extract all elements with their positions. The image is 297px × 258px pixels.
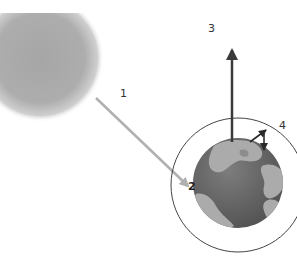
label-3: 3 [208, 23, 215, 34]
earth-globe-icon [193, 138, 284, 228]
sun-icon [0, 0, 104, 122]
arrow-incoming-sunlight [96, 98, 188, 186]
label-1: 1 [120, 88, 127, 99]
label-2: 2 [188, 181, 196, 192]
diagram-canvas: 1 2 3 4 [0, 0, 297, 258]
label-4: 4 [279, 120, 286, 131]
